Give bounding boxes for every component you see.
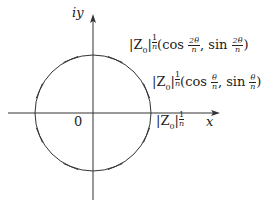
x-axis-label: x [206, 115, 213, 128]
diagram-canvas [0, 0, 274, 205]
origin-label: 0 [74, 115, 82, 128]
root-tick [108, 56, 123, 62]
root-tick [63, 56, 78, 62]
root-tick [36, 128, 42, 143]
root-tick [144, 128, 150, 143]
root-tick [36, 83, 42, 98]
root-tick [144, 83, 150, 98]
root-tick [108, 164, 123, 170]
point2-label: |Z0|1n(cos 2θn, sin 2θn) [129, 37, 249, 55]
y-axis-label: iy [72, 6, 84, 19]
radius-label: |Z0|1n [156, 114, 184, 131]
root-tick [63, 164, 78, 170]
point1-label: |Z0|1n(cos θn, sin θn) [152, 74, 261, 92]
